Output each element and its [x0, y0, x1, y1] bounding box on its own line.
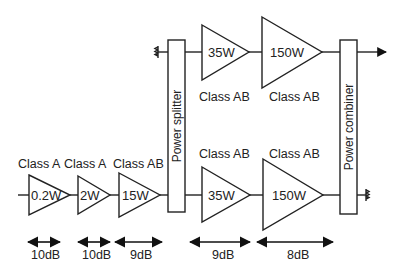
svg-text:35W: 35W [208, 45, 235, 60]
svg-text:Class AB: Class AB [199, 147, 250, 161]
top-amplifier-150w: 150W Class AB [262, 17, 322, 104]
svg-text:8dB: 8dB [287, 248, 309, 262]
svg-text:150W: 150W [272, 188, 307, 203]
gain-arrow-15w: 9dB [115, 242, 162, 262]
amplifier-block-diagram: Power splitter Power combiner 0.2W Class… [0, 0, 399, 275]
bottom-amplifier-35w: 35W Class AB [199, 147, 250, 222]
svg-text:10dB: 10dB [82, 248, 111, 262]
top-amplifier-35w: 35W Class AB [199, 25, 250, 104]
svg-text:Class A: Class A [64, 157, 107, 171]
svg-text:35W: 35W [208, 188, 235, 203]
svg-text:9dB: 9dB [130, 248, 152, 262]
amplifier-0.2w: 0.2W Class A [18, 157, 70, 215]
splitter-termination-icon [155, 46, 158, 58]
svg-text:Class AB: Class AB [269, 147, 320, 161]
svg-text:Power splitter: Power splitter [170, 90, 184, 163]
power-combiner: Power combiner [340, 40, 357, 214]
amplifier-15w: 15W Class AB [113, 157, 164, 217]
bottom-amplifier-150w: 150W Class AB [263, 147, 323, 230]
svg-text:150W: 150W [270, 45, 305, 60]
svg-text:Class AB: Class AB [269, 90, 320, 104]
gain-arrow-0.2w: 10dB [28, 242, 60, 262]
gain-arrow-35w: 9dB [190, 242, 250, 262]
svg-text:Class AB: Class AB [199, 90, 250, 104]
svg-text:9dB: 9dB [212, 248, 234, 262]
svg-text:Class AB: Class AB [113, 157, 164, 171]
gain-arrow-2w: 10dB [78, 242, 111, 262]
svg-text:2W: 2W [80, 188, 100, 203]
svg-text:Class A: Class A [18, 157, 61, 171]
svg-text:Power combiner: Power combiner [342, 84, 356, 171]
amplifier-2w: 2W Class A [64, 157, 110, 214]
svg-text:0.2W: 0.2W [31, 188, 62, 203]
combiner-termination-icon [366, 189, 369, 201]
gain-arrow-150w: 8dB [257, 242, 333, 262]
svg-text:15W: 15W [122, 188, 149, 203]
svg-text:10dB: 10dB [31, 248, 60, 262]
power-splitter: Power splitter [168, 40, 185, 212]
